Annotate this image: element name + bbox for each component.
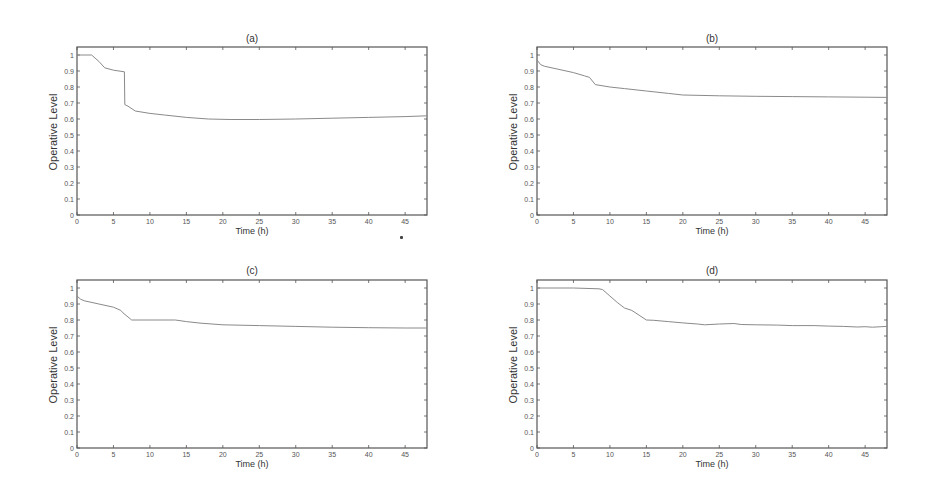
x-tick-label: 5 <box>572 451 576 458</box>
x-tick-label: 30 <box>752 451 760 458</box>
y-tick-label: 1 <box>530 285 534 292</box>
axes-frame <box>537 280 887 448</box>
y-axis-label: Operative Level <box>507 326 519 403</box>
y-tick-label: 0.7 <box>524 333 534 340</box>
data-line <box>537 288 887 327</box>
x-tick-label: 45 <box>861 451 869 458</box>
chart-panel-d: (d) 05101520253035404500.10.20.30.40.50.… <box>0 0 930 493</box>
plot-area: 05101520253035404500.10.20.30.40.50.60.7… <box>0 0 930 493</box>
x-tick-label: 35 <box>788 451 796 458</box>
x-tick-label: 40 <box>825 451 833 458</box>
y-tick-label: 0.3 <box>524 397 534 404</box>
y-tick-label: 0.5 <box>524 365 534 372</box>
x-tick-label: 0 <box>535 451 539 458</box>
y-tick-label: 0.2 <box>524 413 534 420</box>
x-tick-label: 10 <box>606 451 614 458</box>
y-tick-label: 0.4 <box>524 381 534 388</box>
y-tick-label: 0.9 <box>524 301 534 308</box>
scan-artifact-dot <box>400 236 403 239</box>
x-tick-label: 20 <box>679 451 687 458</box>
y-tick-label: 0.8 <box>524 317 534 324</box>
x-tick-label: 25 <box>715 451 723 458</box>
y-tick-label: 0.6 <box>524 349 534 356</box>
x-axis-label: Time (h) <box>695 459 728 469</box>
x-tick-label: 15 <box>642 451 650 458</box>
y-tick-label: 0 <box>530 445 534 452</box>
y-tick-label: 0.1 <box>524 429 534 436</box>
